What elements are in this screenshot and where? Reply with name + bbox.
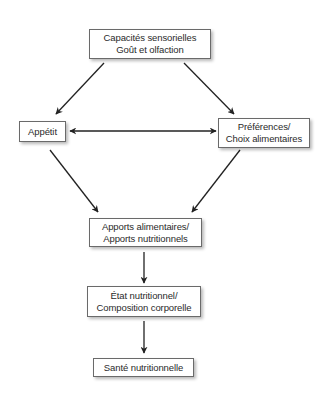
node-preferences: Préférences/ Choix alimentaires (218, 118, 310, 148)
node-nutritional-status: État nutritionnel/ Composition corporell… (87, 286, 201, 317)
node-appetite: Appétit (19, 121, 66, 142)
arrow-sensory-to-appetite (56, 63, 104, 114)
node-nutritional-health: Santé nutritionnelle (93, 358, 194, 377)
node-label-line: Goût et olfaction (116, 44, 183, 56)
node-label-line: Capacités sensorielles (104, 32, 197, 44)
node-label-line: Préférences/ (238, 121, 291, 133)
arrow-preferences-to-intake (192, 150, 240, 212)
node-label-line: Choix alimentaires (226, 133, 302, 145)
arrow-appetite-to-intake (50, 150, 98, 212)
node-label-line: Composition corporelle (97, 302, 192, 314)
node-label-line: Apports alimentaires/ (102, 221, 189, 233)
flowchart-canvas: Capacités sensorielles Goût et olfaction… (0, 0, 325, 409)
arrows-layer (0, 0, 325, 409)
node-label-line: Apports nutritionnels (103, 233, 188, 245)
node-label-line: Appétit (28, 126, 57, 138)
arrow-sensory-to-preferences (184, 63, 234, 114)
node-label-line: État nutritionnel/ (111, 290, 178, 302)
node-sensory-capacities: Capacités sensorielles Goût et olfaction (89, 29, 211, 59)
node-dietary-intake: Apports alimentaires/ Apports nutritionn… (89, 218, 202, 247)
node-label-line: Santé nutritionnelle (104, 362, 183, 374)
